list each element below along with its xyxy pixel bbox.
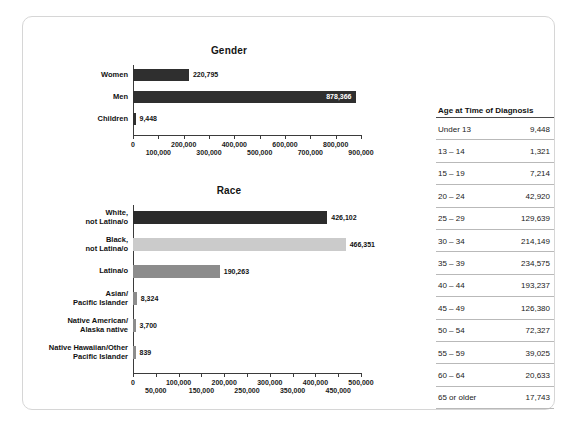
table-row: 60 – 6420,633 [436,364,554,386]
age-count-value: 214,149 [521,236,550,245]
axis-tick [224,373,225,377]
bar-value-label: 426,102 [331,214,356,221]
bar-category-label: Native Hawaiian/OtherPacific Islander [49,344,128,361]
bar-category-label: Women [101,71,128,80]
table-row: 50 – 5472,327 [436,320,554,342]
axis-tick [156,373,157,377]
age-count-value: 129,639 [521,214,550,223]
age-range-label: 30 – 34 [438,236,465,245]
bar [133,238,346,251]
age-range-label: 55 – 59 [438,348,465,357]
gender-plot-area: 0100,000200,000300,000400,000500,000600,… [133,65,361,135]
axis-tick-label: 800,000 [323,141,348,148]
table-row: 45 – 49126,380 [436,297,554,319]
table-row: 65 or older17,743 [436,387,554,409]
bar [133,113,136,125]
axis-tick-label: 500,000 [247,149,272,156]
bar [133,319,136,332]
axis-tick [201,373,202,377]
bar-value-label: 220,795 [193,71,218,78]
bar [133,346,136,359]
age-range-label: 13 – 14 [438,147,465,156]
age-range-label: 25 – 29 [438,214,465,223]
bar-category-label: Asian/Pacific Islander [73,290,128,307]
table-row: 55 – 5939,025 [436,342,554,364]
age-range-label: 40 – 44 [438,281,465,290]
bar [133,265,220,278]
table-row: 30 – 34214,149 [436,230,554,252]
axis-tick [361,373,362,377]
axis-tick-label: 250,000 [234,387,259,394]
axis-tick-label: 150,000 [189,387,214,394]
axis-tick-label: 50,000 [145,387,166,394]
age-range-label: 50 – 54 [438,326,465,335]
axis-tick-label: 200,000 [212,379,237,386]
age-at-diagnosis-table: Age at Time of DiagnosisUnder 139,44813 … [436,102,554,409]
axis-tick-label: 700,000 [298,149,323,156]
age-count-value: 1,321 [530,147,550,156]
age-range-label: Under 13 [438,124,471,133]
bar-category-label: Native American/Alaska native [67,317,128,334]
bar [133,69,189,81]
axis-tick [247,373,248,377]
axis-tick-label: 500,000 [348,379,373,386]
table-row: 15 – 197,214 [436,163,554,185]
bar-value-label: 839 [140,349,152,356]
axis-tick-label: 100,000 [146,149,171,156]
axis-tick-label: 600,000 [272,141,297,148]
bar-value-label: 9,448 [140,115,158,122]
age-count-value: 234,575 [521,259,550,268]
bar-value-label: 8,324 [141,295,159,302]
axis-tick-label: 900,000 [348,149,373,156]
bar-value-label: 466,351 [350,241,375,248]
axis-tick [270,373,271,377]
axis-tick-label: 400,000 [303,379,328,386]
axis-tick [338,373,339,377]
category-axis-line [133,135,361,136]
table-row: 40 – 44193,237 [436,275,554,297]
age-range-label: 15 – 19 [438,169,465,178]
age-count-value: 39,025 [526,348,550,357]
axis-tick [184,135,185,139]
race-chart-title: Race [23,185,435,196]
bar-category-label: Latina/o [99,267,128,276]
axis-tick [158,135,159,139]
axis-tick [179,373,180,377]
age-range-label: 65 or older [438,393,476,402]
gender-chart-title: Gender [23,45,435,56]
table-header-label: Age at Time of Diagnosis [438,106,533,115]
bar [133,211,327,224]
charts-column: Gender 0100,000200,000300,000400,000500,… [23,17,435,411]
axis-tick-label: 400,000 [222,141,247,148]
bar [133,292,137,305]
axis-tick-label: 0 [131,379,135,386]
axis-tick-label: 100,000 [166,379,191,386]
axis-tick [310,135,311,139]
table-header-row: Age at Time of Diagnosis [436,102,554,118]
axis-tick [209,135,210,139]
axis-tick [336,135,337,139]
age-range-label: 60 – 64 [438,370,465,379]
axis-tick-label: 300,000 [257,379,282,386]
axis-tick [315,373,316,377]
axis-tick-label: 450,000 [326,387,351,394]
table-row: 25 – 29129,639 [436,208,554,230]
axis-tick [133,373,134,377]
axis-tick-label: 200,000 [171,141,196,148]
bar-category-label: Men [113,93,128,102]
age-count-value: 72,327 [526,326,550,335]
axis-tick [133,135,134,139]
race-plot-area: 050,000100,000150,000200,000250,000300,0… [133,205,361,373]
bar-category-label: Children [98,115,128,124]
table-row: 35 – 39234,575 [436,252,554,274]
bar-category-label: Black,not Latina/o [86,236,129,253]
age-count-value: 20,633 [526,370,550,379]
bar-value-label: 190,263 [224,268,249,275]
age-range-label: 20 – 24 [438,191,465,200]
age-range-label: 45 – 49 [438,303,465,312]
axis-tick [285,135,286,139]
axis-tick [234,135,235,139]
axis-tick-label: 0 [131,141,135,148]
axis-tick [361,135,362,139]
bar-category-label: White,not Latina/o [86,209,129,226]
